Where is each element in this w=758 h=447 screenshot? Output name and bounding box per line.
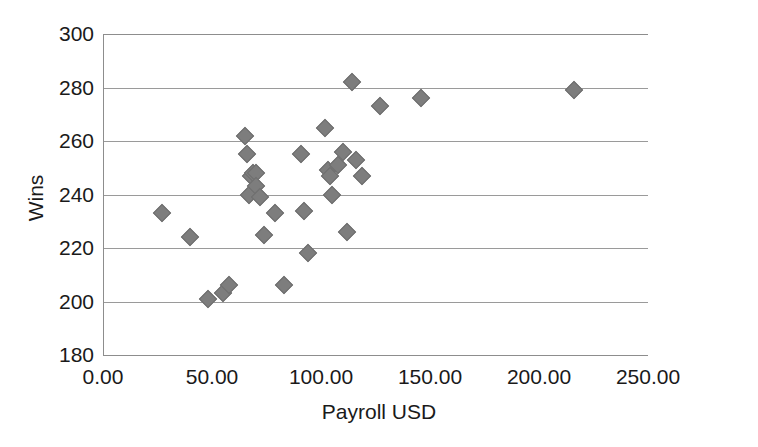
- data-point-marker: [294, 201, 312, 219]
- y-tick-label: 240: [59, 183, 94, 207]
- data-point-marker: [323, 185, 341, 203]
- x-tick-label: 50.00: [186, 365, 239, 389]
- y-tick-label: 220: [59, 236, 94, 260]
- data-point-marker: [292, 145, 310, 163]
- gridline-y-300: [103, 34, 648, 35]
- x-tick-label: 250.00: [616, 365, 680, 389]
- y-tick-label: 260: [59, 129, 94, 153]
- data-point-marker: [235, 126, 253, 144]
- data-point-marker: [299, 244, 317, 262]
- gridline-y-260: [103, 141, 648, 142]
- data-point-marker: [266, 204, 284, 222]
- y-axis-line: [103, 34, 104, 355]
- x-axis-title: Payroll USD: [0, 400, 758, 424]
- gridline-y-180: [103, 355, 648, 356]
- y-tick-label: 180: [59, 343, 94, 367]
- data-point-marker: [412, 89, 430, 107]
- data-point-marker: [316, 118, 334, 136]
- data-point-marker: [342, 73, 360, 91]
- y-tick-label: 280: [59, 76, 94, 100]
- gridline-y-200: [103, 302, 648, 303]
- gridline-y-220: [103, 248, 648, 249]
- scatter-chart-page: 180200220240260280300 0.0050.00100.00150…: [0, 0, 758, 447]
- x-tick-label: 200.00: [507, 365, 571, 389]
- data-point-marker: [338, 223, 356, 241]
- gridline-y-240: [103, 195, 648, 196]
- data-point-marker: [565, 81, 583, 99]
- data-point-marker: [353, 167, 371, 185]
- plot-area: [103, 34, 648, 355]
- data-point-marker: [255, 225, 273, 243]
- data-point-marker: [275, 276, 293, 294]
- y-axis-title: Wins: [24, 138, 48, 258]
- y-tick-label: 200: [59, 290, 94, 314]
- x-tick-label: 0.00: [83, 365, 124, 389]
- x-tick-label: 100.00: [289, 365, 353, 389]
- x-axis-tick-labels: 0.0050.00100.00150.00200.00250.00: [0, 365, 758, 393]
- data-point-marker: [153, 204, 171, 222]
- data-point-marker: [371, 97, 389, 115]
- x-tick-label: 150.00: [398, 365, 462, 389]
- data-point-marker: [181, 228, 199, 246]
- y-tick-label: 300: [59, 22, 94, 46]
- data-point-marker: [238, 145, 256, 163]
